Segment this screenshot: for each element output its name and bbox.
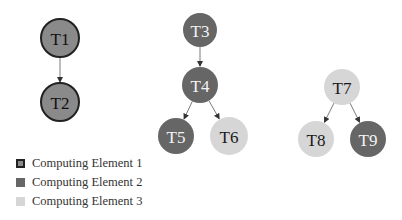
edge-T4-T6: [209, 101, 219, 119]
node-t2: T2: [41, 83, 79, 121]
swatch-ce3-icon: [16, 197, 25, 206]
node-t4: T4: [182, 67, 218, 103]
swatch-ce2-icon: [16, 178, 25, 187]
node-t1: T1: [41, 19, 79, 57]
legend-item-ce2: Computing Element 2: [16, 173, 142, 192]
legend-label: Computing Element 2: [32, 175, 142, 190]
node-t5: T5: [158, 118, 194, 154]
node-t3: T3: [183, 13, 217, 47]
node-label: T5: [167, 128, 186, 147]
node-t8: T8: [298, 121, 334, 157]
legend-label: Computing Element 3: [32, 194, 142, 209]
edge-T7-T8: [324, 103, 333, 122]
swatch-ce1-icon: [16, 159, 25, 168]
node-label: T2: [51, 94, 70, 113]
node-t6: T6: [210, 117, 248, 155]
node-label: T7: [333, 79, 352, 98]
node-label: T6: [220, 128, 239, 147]
edge-T7-T9: [350, 103, 359, 122]
node-label: T9: [359, 131, 378, 150]
legend-label: Computing Element 1: [32, 156, 142, 171]
node-label: T3: [191, 22, 210, 41]
legend-item-ce3: Computing Element 3: [16, 192, 142, 211]
node-t9: T9: [350, 121, 386, 157]
node-label: T8: [307, 131, 326, 150]
legend-item-ce1: Computing Element 1: [16, 154, 142, 173]
node-label: T4: [191, 77, 210, 96]
legend: Computing Element 1 Computing Element 2 …: [16, 154, 142, 211]
nodes: T1T2T3T4T5T6T7T8T9: [41, 13, 386, 157]
node-label: T1: [51, 30, 70, 49]
node-t7: T7: [324, 69, 360, 105]
edge-T4-T5: [184, 101, 192, 119]
